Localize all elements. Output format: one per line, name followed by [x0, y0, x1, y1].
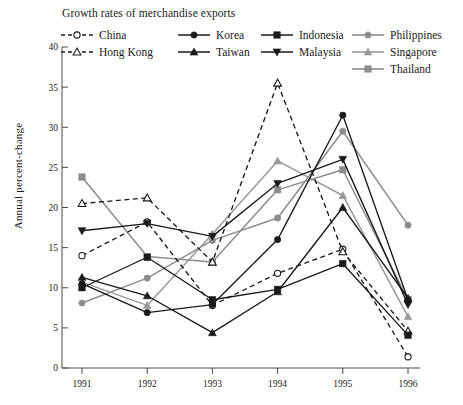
marker-filled-circle: [275, 237, 281, 243]
y-tick-label: 15: [49, 243, 59, 253]
y-tick-label: 0: [53, 363, 58, 373]
marker-filled-square: [340, 167, 346, 173]
y-tick-label: 40: [49, 42, 59, 52]
series-line: [82, 159, 408, 304]
y-tick-label: 5: [53, 323, 58, 333]
series-taiwan: [78, 204, 412, 336]
marker-filled-triangle: [339, 192, 347, 199]
y-axis-ticks: 0510152025303540: [49, 42, 69, 373]
marker-open-circle: [275, 270, 281, 276]
marker-filled-triangle: [404, 313, 412, 320]
chart-plot-area: 0510152025303540199119921993199419951996: [0, 0, 463, 405]
marker-filled-triangle: [78, 273, 86, 280]
series-line: [82, 131, 408, 303]
axes: [62, 47, 420, 368]
marker-filled-circle: [144, 310, 150, 316]
y-axis-label: Annual percent-change: [12, 66, 24, 286]
marker-filled-square: [79, 285, 85, 291]
y-tick-label: 10: [49, 283, 59, 293]
marker-filled-square: [144, 254, 150, 260]
series-line: [82, 222, 408, 357]
y-tick-label: 35: [49, 83, 59, 93]
marker-filled-circle: [405, 222, 411, 228]
marker-filled-triangle: [339, 204, 347, 211]
marker-filled-square: [340, 260, 346, 266]
series-indonesia: [79, 254, 411, 338]
x-tick-label: 1996: [399, 379, 418, 389]
marker-filled-circle: [275, 215, 281, 221]
series-singapore: [78, 157, 412, 320]
marker-filled-circle: [340, 112, 346, 118]
marker-open-circle: [405, 354, 411, 360]
marker-filled-square: [79, 174, 85, 180]
marker-filled-down-triangle: [78, 228, 86, 235]
x-tick-label: 1991: [73, 379, 92, 389]
marker-filled-circle: [144, 275, 150, 281]
series-thailand: [79, 167, 411, 303]
x-tick-label: 1995: [333, 379, 352, 389]
series-china: [79, 219, 411, 360]
y-tick-label: 25: [49, 163, 59, 173]
y-tick-label: 30: [49, 123, 59, 133]
x-axis-ticks: 199119921993199419951996: [73, 368, 418, 389]
x-tick-label: 1992: [138, 379, 157, 389]
chart-figure: Growth rates of merchandise exports Chin…: [0, 0, 463, 405]
x-tick-label: 1993: [203, 379, 222, 389]
marker-filled-triangle: [209, 329, 217, 336]
y-tick-label: 20: [49, 203, 59, 213]
marker-filled-down-triangle: [404, 302, 412, 309]
series-line: [82, 170, 408, 300]
x-tick-label: 1994: [268, 379, 287, 389]
series-line: [82, 161, 408, 317]
marker-open-circle: [79, 253, 85, 259]
series-philippines: [79, 128, 411, 306]
marker-filled-circle: [79, 300, 85, 306]
series-line: [82, 257, 408, 335]
marker-filled-square: [209, 297, 215, 303]
marker-filled-circle: [340, 128, 346, 134]
marker-open-triangle: [274, 79, 282, 86]
marker-filled-square: [405, 332, 411, 338]
series-line: [82, 115, 408, 312]
marker-filled-square: [274, 286, 280, 292]
marker-filled-triangle: [274, 157, 282, 164]
